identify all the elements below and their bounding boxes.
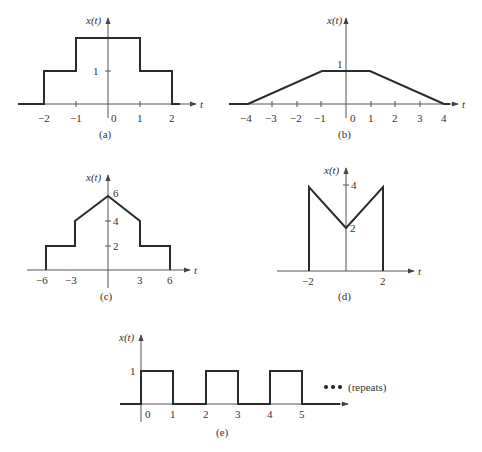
y-tick-label: 1 (130, 365, 136, 377)
plot-e: x(t) 1 0 1 2 3 4 5 (repeats) (e) (118, 331, 387, 439)
y-label: x(t) (118, 331, 135, 344)
x-tick-label: −3 (65, 274, 77, 286)
y-label: x(t) (326, 14, 343, 27)
x-tick-label: −2 (290, 112, 302, 124)
x-label: t (418, 265, 422, 277)
y-label: x(t) (85, 14, 102, 27)
x-tick-label: 4 (267, 408, 273, 420)
x-tick-label: 1 (368, 112, 374, 124)
x-tick-label: −6 (36, 274, 48, 286)
y-label: x(t) (85, 171, 102, 184)
caption: (a) (99, 128, 112, 141)
x-tick-label: 1 (170, 408, 176, 420)
y-tick-label: 1 (93, 65, 99, 77)
x-tick-label: 5 (299, 408, 305, 420)
x-tick-label: −4 (240, 112, 252, 124)
x-label: t (194, 264, 198, 276)
x-tick-label: 3 (417, 112, 423, 124)
signal-curve (229, 71, 450, 104)
caption: (b) (338, 128, 351, 141)
y-tick-label: 2 (350, 222, 356, 234)
x-tick-label: 1 (137, 112, 143, 124)
x-tick-label: 3 (235, 408, 241, 420)
x-tick-label: −1 (70, 112, 82, 124)
y-tick-label: 6 (113, 187, 119, 199)
caption: (d) (338, 290, 351, 303)
caption: (e) (216, 426, 229, 439)
x-tick-label: 0 (145, 408, 151, 420)
x-tick-label: 2 (169, 112, 175, 124)
x-tick-label: 0 (350, 112, 356, 124)
x-tick-label: −1 (314, 112, 326, 124)
signal-figure: x(t) t 1 −2 −1 0 1 2 (a) x(t) t 1 −4 −3 … (0, 0, 482, 452)
signal-curve (120, 371, 340, 404)
plot-d: x(t) t 4 2 −2 2 (d) (277, 164, 422, 303)
x-tick-label: 2 (203, 408, 209, 420)
y-label: x(t) (323, 164, 340, 177)
plot-c: x(t) t 2 4 6 −6 −3 3 6 (c) (27, 171, 198, 303)
y-tick-label: 4 (351, 179, 357, 191)
plot-b: x(t) t 1 −4 −3 −2 −1 0 1 2 3 4 (b) (229, 14, 466, 141)
x-tick-label: 6 (167, 274, 173, 286)
signal-curve (18, 38, 180, 104)
x-tick-label: 3 (137, 274, 143, 286)
repeats-annotation: (repeats) (348, 381, 387, 394)
caption: (c) (100, 290, 113, 303)
x-tick-label: −2 (38, 112, 50, 124)
y-tick-label: 4 (113, 215, 119, 227)
plot-a: x(t) t 1 −2 −1 0 1 2 (a) (18, 14, 204, 141)
x-tick-label: 4 (441, 112, 447, 124)
y-tick-label: 2 (113, 240, 119, 252)
x-tick-label: −2 (302, 275, 314, 287)
ellipsis-icon (324, 385, 342, 389)
x-tick-label: 0 (111, 112, 117, 124)
x-tick-label: 2 (380, 275, 386, 287)
x-label: t (462, 98, 466, 110)
x-tick-label: −3 (265, 112, 277, 124)
y-tick-label: 1 (337, 58, 343, 70)
x-tick-label: 2 (392, 112, 398, 124)
x-label: t (200, 98, 204, 110)
